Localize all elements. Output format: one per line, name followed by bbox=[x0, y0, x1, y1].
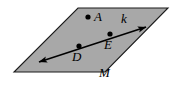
plane-m-label: M bbox=[99, 66, 110, 79]
point-e-label: E bbox=[104, 38, 112, 51]
point-e-dot bbox=[107, 31, 112, 36]
geometry-figure: A k E D M bbox=[0, 0, 179, 86]
point-d-dot bbox=[76, 43, 81, 48]
point-d-label: D bbox=[72, 50, 81, 63]
line-k-label: k bbox=[121, 12, 127, 25]
geometry-canvas bbox=[0, 0, 179, 86]
point-a-dot bbox=[85, 14, 90, 19]
point-a-label: A bbox=[94, 10, 102, 23]
plane-m-shape bbox=[14, 8, 168, 72]
